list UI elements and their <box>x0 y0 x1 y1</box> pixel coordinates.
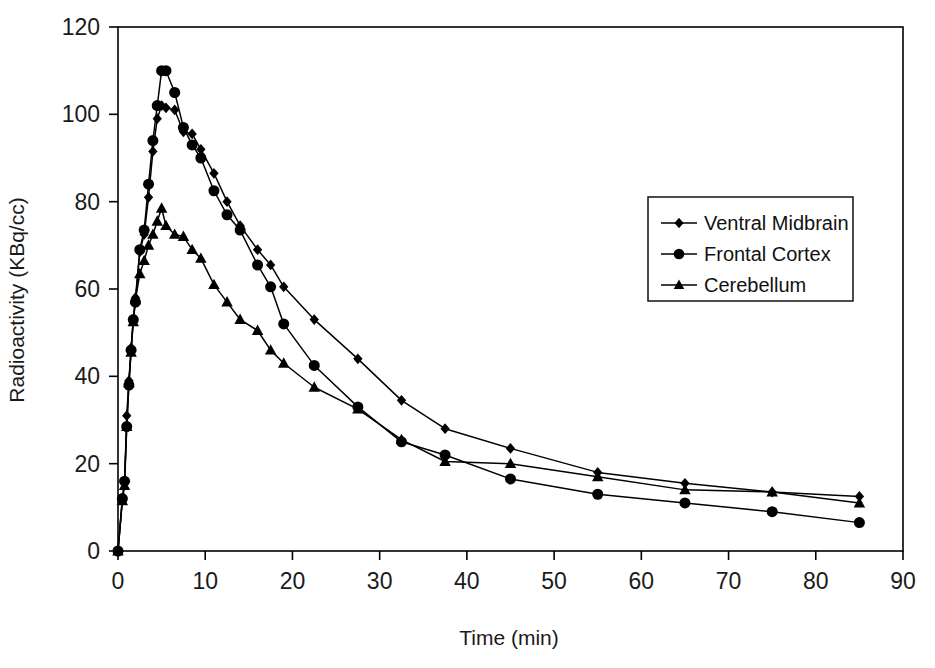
series-frontal-cortex <box>112 65 864 556</box>
data-point-circle <box>592 489 603 500</box>
x-tick-label: 10 <box>192 568 218 594</box>
x-tick-label: 80 <box>803 568 829 594</box>
data-point-triangle <box>156 202 167 212</box>
y-axis-ticks <box>109 27 118 551</box>
data-point-diamond <box>506 443 515 454</box>
data-point-circle <box>505 473 516 484</box>
line-chart: 0102030405060708090 020406080100120 Vent… <box>0 0 935 668</box>
data-point-triangle <box>186 244 197 254</box>
x-tick-label: 30 <box>367 568 393 594</box>
data-point-diamond <box>153 113 162 124</box>
series-ventral-midbrain <box>113 100 864 556</box>
data-point-triangle <box>309 381 320 391</box>
data-point-circle <box>674 249 685 260</box>
legend-label: Cerebellum <box>704 274 806 296</box>
x-tick-label: 50 <box>541 568 567 594</box>
x-tick-label: 0 <box>112 568 125 594</box>
data-point-circle <box>767 506 778 517</box>
chart-figure: 0102030405060708090 020406080100120 Vent… <box>0 0 935 668</box>
data-point-triangle <box>208 279 219 289</box>
data-point-circle <box>143 179 154 190</box>
data-point-circle <box>252 259 263 270</box>
data-point-circle <box>169 87 180 98</box>
legend-label: Ventral Midbrain <box>704 212 849 234</box>
data-series-layer <box>112 65 865 556</box>
data-point-diamond <box>440 423 449 434</box>
data-point-circle <box>187 139 198 150</box>
x-tick-label: 40 <box>454 568 480 594</box>
data-point-circle <box>278 318 289 329</box>
data-point-circle <box>679 497 690 508</box>
x-tick-label: 20 <box>280 568 306 594</box>
x-axis-tick-labels: 0102030405060708090 <box>112 568 916 594</box>
chart-legend: Ventral MidbrainFrontal CortexCerebellum <box>648 197 853 301</box>
data-point-triangle <box>134 268 145 278</box>
data-point-triangle <box>152 215 163 225</box>
data-point-triangle <box>265 344 276 354</box>
series-line <box>118 71 859 551</box>
data-point-circle <box>265 281 276 292</box>
data-point-circle <box>235 225 246 236</box>
data-point-circle <box>152 100 163 111</box>
data-point-triangle <box>252 325 263 335</box>
data-point-circle <box>222 209 233 220</box>
data-point-circle <box>160 65 171 76</box>
legend-label: Frontal Cortex <box>704 243 831 265</box>
series-line <box>118 106 859 551</box>
y-tick-label: 100 <box>62 101 100 127</box>
x-tick-label: 90 <box>890 568 916 594</box>
data-point-circle <box>208 185 219 196</box>
data-point-diamond <box>209 168 218 179</box>
y-tick-label: 20 <box>74 451 100 477</box>
data-point-triangle <box>143 239 154 249</box>
data-point-diamond <box>144 192 153 203</box>
data-point-circle <box>147 135 158 146</box>
data-point-circle <box>854 517 865 528</box>
data-point-circle <box>195 152 206 163</box>
y-tick-label: 80 <box>74 189 100 215</box>
data-point-diamond <box>222 196 231 207</box>
y-tick-label: 0 <box>87 538 100 564</box>
data-point-circle <box>309 360 320 371</box>
y-tick-label: 120 <box>62 14 100 40</box>
x-axis-title: Time (min) <box>459 626 559 649</box>
y-tick-label: 40 <box>74 363 100 389</box>
x-tick-label: 70 <box>716 568 742 594</box>
data-point-circle <box>178 122 189 133</box>
x-tick-label: 60 <box>629 568 655 594</box>
x-axis-ticks <box>118 551 903 560</box>
data-point-circle <box>139 225 150 236</box>
y-axis-tick-labels: 020406080100120 <box>62 14 100 564</box>
y-axis-title: Radioactivity (KBq/cc) <box>5 197 28 402</box>
y-tick-label: 60 <box>74 276 100 302</box>
